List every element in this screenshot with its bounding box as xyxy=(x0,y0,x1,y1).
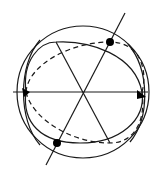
lower-point-marker xyxy=(53,139,61,147)
great-circle-dashed-back xyxy=(26,42,144,92)
upper-point-marker xyxy=(106,38,114,46)
sphere-diagram xyxy=(0,0,161,174)
great-circle-dashed-back-lower xyxy=(26,92,143,143)
